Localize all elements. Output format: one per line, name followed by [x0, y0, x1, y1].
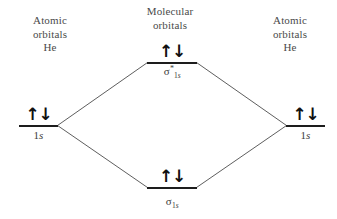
heading-right-line3: He — [248, 41, 332, 55]
heading-molecular: Molecular orbitals — [118, 5, 222, 32]
sigma-star-symbol: σ — [164, 65, 170, 77]
right-1s-letter: s — [306, 129, 310, 141]
heading-left-line2: orbitals — [8, 28, 92, 42]
heading-mid-line1: Molecular — [118, 5, 222, 19]
heading-left-atomic: Atomic orbitals He — [8, 14, 92, 55]
sigma-symbol: σ — [166, 195, 172, 207]
level-bar-left-1s — [19, 125, 58, 127]
connector-left-antibonding — [58, 63, 148, 126]
level-label-sigma-star-1s: σ*1s — [147, 65, 197, 79]
level-label-left-1s: 1s — [19, 129, 58, 141]
electron-pair-sigma-star-1s: ↑↓ — [147, 43, 197, 60]
level-bar-right-1s — [286, 125, 325, 127]
heading-left-line3: He — [8, 41, 92, 55]
connector-right-bonding — [197, 126, 287, 188]
heading-right-line1: Atomic — [248, 14, 332, 28]
heading-left-line1: Atomic — [8, 14, 92, 28]
level-label-right-1s: 1s — [286, 129, 325, 141]
electron-pair-right-1s: ↑↓ — [286, 106, 325, 123]
mo-diagram: Atomic orbitals He Molecular orbitals At… — [0, 0, 337, 219]
heading-right-line2: orbitals — [248, 28, 332, 42]
electron-pair-sigma-1s: ↑↓ — [147, 168, 197, 185]
electron-pair-left-1s: ↑↓ — [19, 106, 58, 123]
sigma-subscript-letter: s — [176, 201, 179, 210]
connector-left-bonding — [58, 126, 148, 188]
level-label-sigma-1s: σ1s — [147, 195, 197, 209]
sigma-star-subscript-letter: s — [178, 71, 181, 80]
left-1s-letter: s — [39, 129, 43, 141]
heading-mid-line2: orbitals — [118, 19, 222, 33]
heading-right-atomic: Atomic orbitals He — [248, 14, 332, 55]
level-bar-sigma-1s — [147, 187, 197, 189]
connector-right-antibonding — [197, 63, 287, 126]
